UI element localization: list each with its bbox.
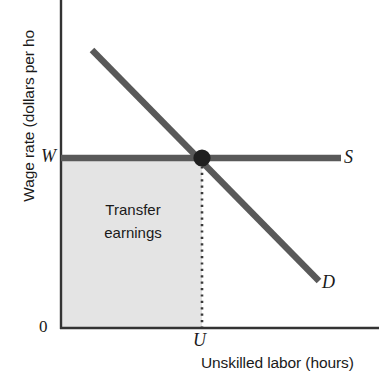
transfer-earnings-label-line1: Transfer — [105, 201, 160, 218]
origin-label: 0 — [39, 318, 48, 335]
transfer-earnings-label-line2: earnings — [104, 224, 162, 241]
supply-curve-label: S — [344, 148, 353, 166]
economics-figure: Wage rate (dollars per ho Unskilled labo… — [0, 0, 379, 379]
wage-axis-label: W — [41, 147, 56, 165]
transfer-earnings-label: Transfer earnings — [73, 198, 193, 245]
x-axis-title: Unskilled labor (hours) — [201, 355, 354, 371]
demand-curve-label: D — [322, 273, 335, 291]
quantity-axis-label: U — [193, 331, 206, 349]
equilibrium-point — [193, 149, 210, 166]
y-axis-title: Wage rate (dollars per ho — [21, 1, 37, 231]
chart-plot-area — [0, 0, 379, 379]
